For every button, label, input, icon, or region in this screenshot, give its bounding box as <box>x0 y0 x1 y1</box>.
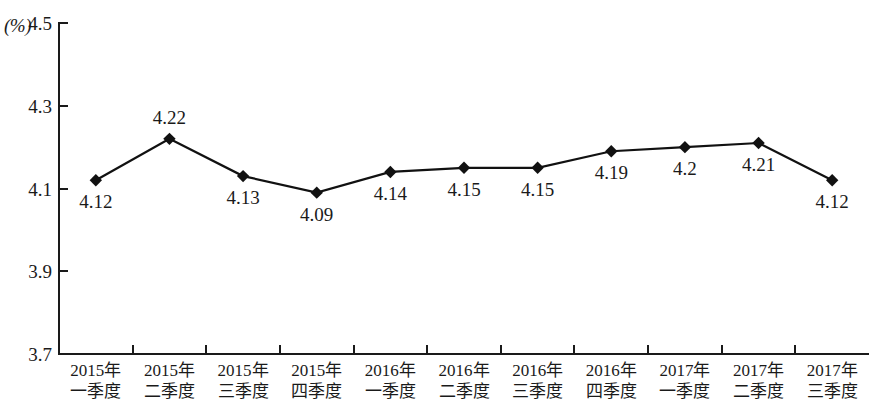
data-point-label: 4.19 <box>595 163 628 182</box>
data-point-label: 4.12 <box>79 192 112 211</box>
x-axis-category-label: 2015年四季度 <box>291 360 342 403</box>
data-point-label: 4.15 <box>447 180 480 199</box>
x-axis-category-label: 2016年三季度 <box>512 360 563 403</box>
x-axis-category-label: 2015年三季度 <box>218 360 269 403</box>
data-point-marker <box>90 174 102 186</box>
x-axis-category-label: 2015年一季度 <box>70 360 121 403</box>
data-point-label: 4.14 <box>374 184 407 203</box>
data-point-marker <box>531 162 543 174</box>
data-point-marker <box>826 174 838 186</box>
data-point-marker <box>752 137 764 149</box>
data-point-marker <box>311 186 323 198</box>
data-point-label: 4.21 <box>742 155 775 174</box>
data-point-marker <box>679 141 691 153</box>
x-axis-category-label: 2016年一季度 <box>365 360 416 403</box>
data-point-marker <box>458 162 470 174</box>
data-point-marker <box>163 133 175 145</box>
x-axis-category-label: 2016年二季度 <box>439 360 490 403</box>
data-point-label: 4.09 <box>300 205 333 224</box>
series-plot <box>0 0 869 409</box>
x-axis-category-label: 2017年一季度 <box>659 360 710 403</box>
data-point-label: 4.2 <box>673 159 697 178</box>
data-point-label: 4.12 <box>816 192 849 211</box>
data-point-marker <box>605 145 617 157</box>
data-point-marker <box>384 166 396 178</box>
data-point-label: 4.22 <box>153 108 186 127</box>
x-axis-category-label: 2016年四季度 <box>586 360 637 403</box>
data-point-label: 4.15 <box>521 180 554 199</box>
x-axis-category-label: 2017年二季度 <box>733 360 784 403</box>
line-chart: (%) 4.54.34.13.93.7 4.124.224.134.094.14… <box>0 0 869 409</box>
data-point-marker <box>237 170 249 182</box>
x-axis-category-label: 2015年二季度 <box>144 360 195 403</box>
data-point-label: 4.13 <box>226 188 259 207</box>
x-axis-category-label: 2017年三季度 <box>807 360 858 403</box>
